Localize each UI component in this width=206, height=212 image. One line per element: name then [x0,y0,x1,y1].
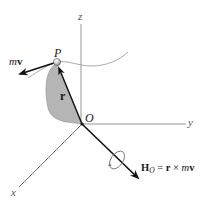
equals-sign: = [157,162,163,173]
momentum-label: mv [9,56,22,67]
angular-momentum-diagram [0,0,206,212]
particle-label: P [54,47,61,59]
rotation-indicator-icon [106,148,127,171]
y-axis-label: y [188,117,193,128]
r-symbol: r [166,162,171,173]
momentum-velocity-symbol: v [17,55,23,67]
x-axis-label: x [11,187,16,198]
cross-symbol: × [173,162,179,173]
angular-momentum-label: HO = r × mv [141,163,194,175]
origin-label: O [85,112,94,124]
trajectory-curve [28,52,128,78]
h-symbol: H [141,162,149,173]
position-vector-label: r [60,90,65,102]
v-symbol: v [189,162,194,173]
h-subscript: O [149,166,154,175]
x-axis [19,124,82,187]
momentum-mass-symbol: m [9,55,17,67]
z-axis-label: z [78,11,82,22]
origin-point [80,122,83,125]
angular-momentum-vector [82,124,138,178]
